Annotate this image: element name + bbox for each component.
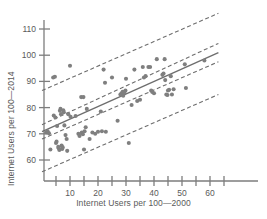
svg-text:70: 70 bbox=[27, 129, 37, 139]
tick-labels: 60708090100110102030405060 bbox=[22, 24, 215, 198]
scatter-plot-figure: 60708090100110102030405060 Internet User… bbox=[0, 0, 267, 219]
svg-text:50: 50 bbox=[177, 188, 187, 198]
svg-text:60: 60 bbox=[27, 155, 37, 165]
svg-text:20: 20 bbox=[93, 188, 103, 198]
svg-text:110: 110 bbox=[22, 24, 36, 34]
svg-text:30: 30 bbox=[121, 188, 131, 198]
svg-text:80: 80 bbox=[27, 103, 37, 113]
svg-text:100: 100 bbox=[22, 50, 36, 60]
svg-text:60: 60 bbox=[205, 188, 215, 198]
svg-text:40: 40 bbox=[149, 188, 159, 198]
axes bbox=[39, 20, 258, 186]
x-axis-label: Internet Users per 100—2000 bbox=[0, 198, 267, 208]
svg-text:10: 10 bbox=[65, 188, 75, 198]
svg-text:90: 90 bbox=[27, 76, 37, 86]
plot-canvas: 60708090100110102030405060 bbox=[0, 0, 267, 219]
data-points bbox=[44, 57, 206, 153]
y-axis-label: Internet Users per 100—2014 bbox=[6, 71, 16, 186]
